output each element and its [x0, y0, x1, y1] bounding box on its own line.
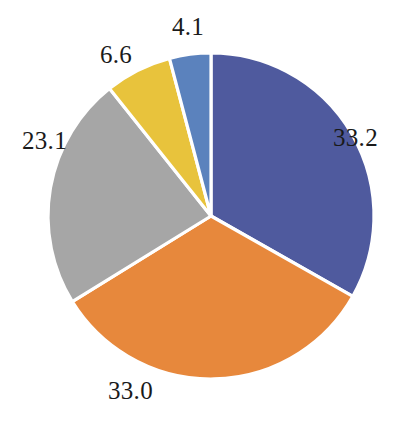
pie-label-light-blue: 4.1 [172, 14, 204, 39]
pie-label-orange: 33.0 [108, 378, 153, 403]
pie-label-yellow: 6.6 [100, 42, 132, 67]
pie-slice-group [48, 53, 374, 379]
pie-chart-svg [0, 0, 417, 426]
pie-chart-figure: 33.2 33.0 23.1 6.6 4.1 [0, 0, 417, 426]
pie-label-dark-blue: 33.2 [333, 125, 378, 150]
pie-label-gray: 23.1 [22, 128, 67, 153]
